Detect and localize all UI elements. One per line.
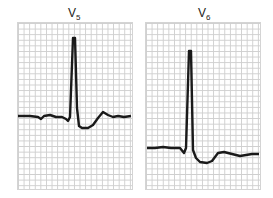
ecg-trace-v5 (18, 38, 131, 128)
ecg-trace-v6 (147, 51, 259, 163)
ecg-traces (0, 0, 273, 198)
